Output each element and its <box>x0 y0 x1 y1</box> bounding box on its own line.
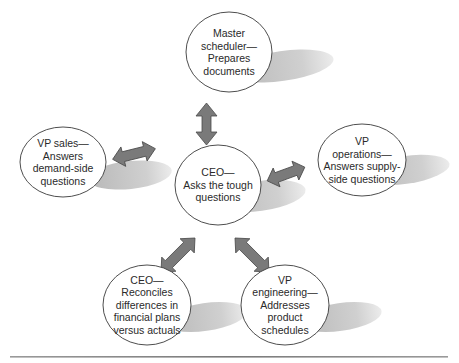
double-arrow-icon <box>196 103 217 145</box>
label-line: Reconciles <box>121 286 172 299</box>
label-line: VP sales— <box>37 137 89 150</box>
label-line: versus actuals <box>113 324 180 337</box>
label-ceo-center: CEO— Asks the tough questions <box>176 147 260 223</box>
label-vp-sales: VP sales— Answers demand-side questions <box>23 127 103 197</box>
label-vp-operations: VP operations— Answers supply- side ques… <box>320 124 404 196</box>
label-ceo-reconciles: CEO— Reconciles differences in financial… <box>105 265 189 345</box>
label-line: operations— <box>332 148 392 161</box>
label-line: questions <box>41 175 86 188</box>
label-line: differences in <box>116 299 178 312</box>
label-line: Answers supply- <box>323 160 400 173</box>
label-line: documents <box>203 65 254 78</box>
label-line: Answers <box>43 150 83 163</box>
label-line: product <box>267 311 302 324</box>
label-line: questions <box>196 191 241 204</box>
label-line: Master <box>213 27 245 40</box>
label-line: engineering— <box>252 286 317 299</box>
label-line: Asks the tough <box>183 179 252 192</box>
label-line: financial plans <box>114 311 181 324</box>
label-line: side questions <box>328 173 395 186</box>
label-line: CEO— <box>201 166 234 179</box>
bottom-divider <box>10 356 448 358</box>
label-master-scheduler: Master scheduler— Prepares documents <box>189 12 269 92</box>
label-line: VP <box>278 274 292 287</box>
label-line: Prepares <box>208 52 251 65</box>
label-line: demand-side <box>33 162 94 175</box>
label-line: CEO— <box>130 274 163 287</box>
label-vp-engineering: VP engineering— Addresses product schedu… <box>243 265 327 345</box>
label-line: scheduler— <box>201 40 257 53</box>
label-line: schedules <box>261 324 308 337</box>
label-line: Addresses <box>260 299 310 312</box>
label-line: VP <box>355 135 369 148</box>
